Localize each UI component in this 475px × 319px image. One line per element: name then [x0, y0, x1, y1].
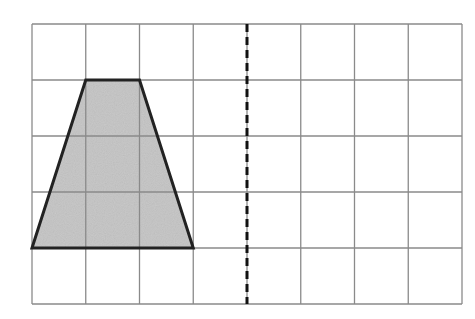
- trapezoid-layer: [32, 80, 193, 248]
- trapezoid-fill: [32, 80, 193, 248]
- grid-diagram: [0, 0, 475, 319]
